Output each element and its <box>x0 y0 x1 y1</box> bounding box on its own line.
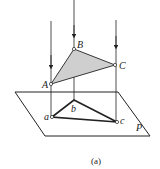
plane-p <box>15 92 150 136</box>
label-a: a <box>44 111 49 122</box>
label-c: c <box>120 115 125 126</box>
point-b-upper <box>72 47 75 50</box>
label-C: C <box>119 60 126 71</box>
label-b: b <box>71 103 76 114</box>
label-A: A <box>41 79 49 90</box>
point-a-upper <box>49 82 52 85</box>
point-a-lower <box>50 115 53 118</box>
point-c-upper <box>113 63 116 66</box>
projection-diagram: A B C a b c P (a) <box>0 0 160 169</box>
figure-caption: (a) <box>91 156 101 166</box>
point-c-lower <box>115 120 118 123</box>
triangle-projection-abc <box>52 100 117 122</box>
label-plane-p: P <box>135 122 142 133</box>
label-B: B <box>77 39 83 50</box>
triangle-abc <box>51 49 115 84</box>
